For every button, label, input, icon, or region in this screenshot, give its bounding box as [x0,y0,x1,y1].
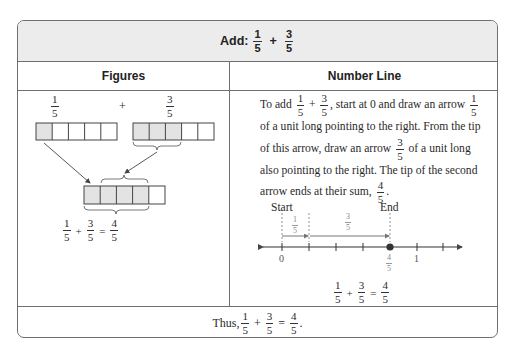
figures-equation: 15 + 35 = 45 [61,218,120,243]
sum-point [386,243,393,250]
bar-one-fifth [36,123,117,140]
tick-label-one: 1 [414,253,419,264]
start-label: Start [271,201,293,213]
segment-two-label: 35 [343,212,353,232]
bar-four-fifths [84,175,165,214]
tick-label-zero: 0 [279,253,284,264]
number-line-equation: 15 + 35 = 45 [332,280,391,305]
point-label: 45 [384,253,394,273]
end-label: End [380,201,399,213]
number-line-explanation: To add 15 + 35, start at 0 and draw an a… [260,93,492,205]
bar-three-fifths [133,123,214,150]
segment-one-label: 15 [290,215,300,235]
